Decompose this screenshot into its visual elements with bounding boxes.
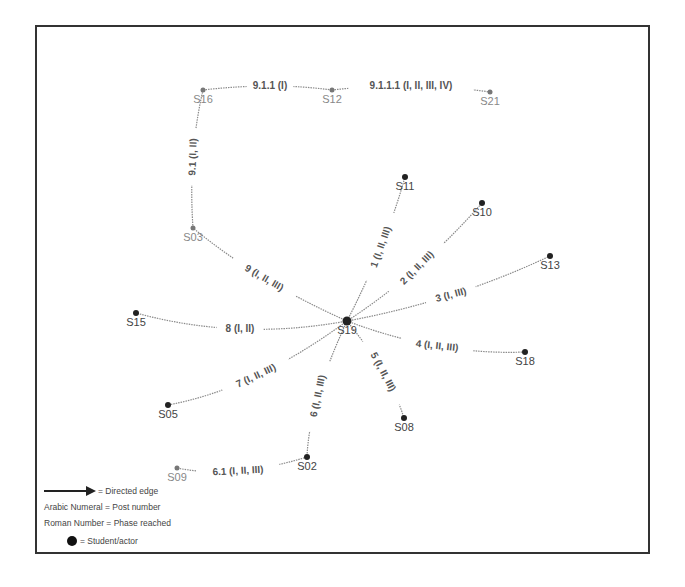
node-label: S05 bbox=[158, 408, 178, 420]
edge-label: 8 (I, II) bbox=[226, 323, 255, 334]
node-s21 bbox=[488, 90, 493, 95]
node-label: S16 bbox=[193, 93, 213, 105]
edge-label: 2 (I, II, III) bbox=[398, 249, 436, 287]
edge-label: 9.1.1.1 (I, II, III, IV) bbox=[370, 80, 453, 91]
node-label: S12 bbox=[322, 93, 342, 105]
legend-actor: = Student/actor bbox=[80, 536, 138, 546]
node-label: S15 bbox=[126, 316, 146, 328]
edge-label: 9 (I, II, III) bbox=[243, 262, 286, 293]
edge-label: 5 (I, II, III) bbox=[369, 350, 399, 393]
legend-arabic: Arabic Numeral = Post number bbox=[44, 502, 161, 512]
node-label: S03 bbox=[183, 231, 203, 243]
legend-directed-edge: = Directed edge bbox=[98, 486, 159, 496]
network-graph: S16S12S21S03S11S10S13S15S19S18S05S08S02S… bbox=[0, 0, 685, 587]
node-label: S18 bbox=[515, 355, 535, 367]
node-label: S13 bbox=[540, 259, 560, 271]
arrow-icon bbox=[86, 486, 96, 496]
edge-label: 4 (I, II, III) bbox=[415, 338, 459, 353]
edge-label: 1 (I, II, III) bbox=[368, 225, 393, 269]
node-s16 bbox=[201, 88, 206, 93]
legend-roman: Roman Number = Phase reached bbox=[44, 518, 171, 528]
node-s09 bbox=[175, 466, 180, 471]
node-label: S11 bbox=[396, 180, 415, 192]
node-s03 bbox=[191, 226, 196, 231]
node-label: S10 bbox=[472, 206, 492, 218]
node-label: S02 bbox=[297, 460, 317, 472]
node-label: S21 bbox=[480, 95, 500, 107]
node-label: S09 bbox=[167, 471, 187, 483]
edge-label: 9.1.1 (I) bbox=[253, 80, 287, 91]
edge-labels-layer: 1 (I, II, III)2 (I, II, III)3 (I, III)4 … bbox=[186, 80, 478, 479]
node-label: S19 bbox=[337, 324, 357, 336]
legend: = Directed edge Arabic Numeral = Post nu… bbox=[44, 486, 171, 546]
node-label: S08 bbox=[394, 421, 414, 433]
edge-label: 6 (I, II, III) bbox=[308, 374, 328, 418]
edge-label: 9.1 (I, II) bbox=[186, 138, 198, 176]
actor-dot-icon bbox=[67, 536, 77, 546]
node-s12 bbox=[330, 88, 335, 93]
